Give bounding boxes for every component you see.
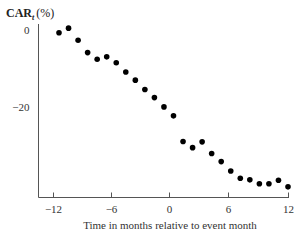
chart: CARt(%) −12−606120−20 Time in months rel… <box>0 0 308 241</box>
data-point <box>142 87 148 93</box>
data-point <box>85 50 91 56</box>
data-point <box>209 151 215 157</box>
x-axis-label: Time in months relative to event month <box>83 219 257 231</box>
data-point <box>152 95 158 101</box>
x-tick-label: −12 <box>45 203 62 215</box>
data-point <box>113 60 119 66</box>
data-point <box>161 104 167 110</box>
data-point <box>266 181 272 187</box>
x-tick-label: 6 <box>226 203 232 215</box>
axes <box>39 24 290 198</box>
data-point <box>94 56 100 62</box>
data-point <box>104 54 110 60</box>
y-tick-label: 0 <box>24 24 30 36</box>
data-point <box>66 25 72 31</box>
data-point <box>190 145 196 151</box>
data-point <box>237 176 243 182</box>
data-point <box>133 77 139 83</box>
data-point <box>199 139 205 145</box>
ticks: −12−606120−20 <box>12 24 294 215</box>
data-point <box>171 113 177 119</box>
data-point <box>285 184 291 190</box>
x-tick-label: −6 <box>106 203 118 215</box>
y-tick-label: −20 <box>12 101 30 113</box>
x-tick-label: 0 <box>167 203 173 215</box>
data-point <box>75 37 81 43</box>
data-points <box>56 25 291 189</box>
data-point <box>228 168 234 174</box>
data-point <box>123 69 129 75</box>
data-point <box>56 30 62 36</box>
y-axis-title: CARt(%) <box>6 6 54 22</box>
data-point <box>218 159 224 165</box>
x-tick-label: 12 <box>283 203 294 215</box>
data-point <box>276 177 282 183</box>
data-point <box>247 177 253 183</box>
data-point <box>257 181 263 187</box>
data-point <box>180 139 186 145</box>
